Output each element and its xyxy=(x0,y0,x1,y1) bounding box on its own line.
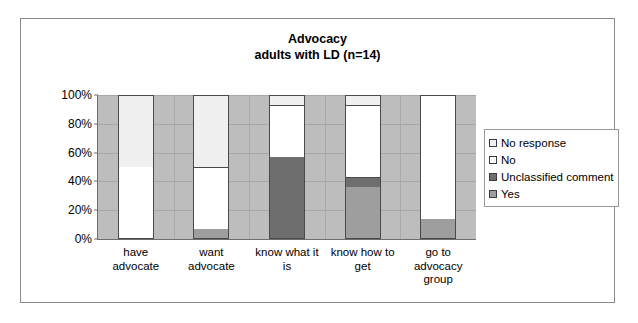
y-axis-tick-mark xyxy=(94,152,98,153)
bar-segment[interactable] xyxy=(345,177,381,187)
legend-label: Yes xyxy=(501,188,520,200)
legend-swatch-icon xyxy=(489,139,497,147)
chart-frame: Advocacy adults with LD (n=14) 0%20%40%6… xyxy=(20,18,615,303)
legend-item[interactable]: No response xyxy=(489,134,613,151)
bar-segment[interactable] xyxy=(118,167,154,239)
bar-segment[interactable] xyxy=(193,95,229,167)
bar-segment[interactable] xyxy=(345,105,381,177)
x-axis-label: know what itis xyxy=(249,246,325,273)
x-axis-label-line: group xyxy=(400,273,476,287)
legend-swatch-icon xyxy=(489,190,497,198)
legend-item[interactable]: Yes xyxy=(489,185,613,202)
legend-swatch-icon xyxy=(489,173,497,181)
bar-segment[interactable] xyxy=(269,105,305,157)
bar-segment[interactable] xyxy=(118,95,154,167)
x-axis-label-line: get xyxy=(325,260,401,274)
category-separator xyxy=(325,95,326,239)
bar-segment[interactable] xyxy=(193,229,229,239)
chart-subtitle: adults with LD (n=14) xyxy=(21,47,614,63)
bar-segment[interactable] xyxy=(269,95,305,105)
y-axis-tick-label: 80% xyxy=(68,117,92,131)
x-axis-label: know how toget xyxy=(325,246,401,273)
plot-area: 0%20%40%60%80%100%haveadvocatewantadvoca… xyxy=(97,95,476,240)
y-axis-tick-label: 20% xyxy=(68,203,92,217)
bar-segment[interactable] xyxy=(193,167,229,229)
legend-label: Unclassified comment xyxy=(501,171,613,183)
bar-column[interactable] xyxy=(269,95,305,239)
x-axis-label-line: want xyxy=(174,246,250,260)
y-axis-tick-mark xyxy=(94,181,98,182)
category-separator xyxy=(174,95,175,239)
bar-segment[interactable] xyxy=(345,187,381,239)
x-axis-label-line: know how to xyxy=(325,246,401,260)
legend-swatch-icon xyxy=(489,156,497,164)
chart-legend: No responseNoUnclassified commentYes xyxy=(484,129,619,207)
x-axis-label: wantadvocate xyxy=(174,246,250,273)
y-axis-tick-mark xyxy=(94,210,98,211)
legend-label: No xyxy=(501,154,516,166)
y-axis-tick-label: 40% xyxy=(68,174,92,188)
category-separator xyxy=(400,95,401,239)
x-axis-label-line: advocate xyxy=(98,260,174,274)
chart-title: Advocacy adults with LD (n=14) xyxy=(21,31,614,63)
x-axis-label: haveadvocate xyxy=(98,246,174,273)
y-axis-tick-mark xyxy=(94,123,98,124)
bar-column[interactable] xyxy=(420,95,456,239)
x-axis-label-line: advocate xyxy=(174,260,250,274)
bar-column[interactable] xyxy=(193,95,229,239)
y-axis-tick-label: 0% xyxy=(75,232,92,246)
bar-segment[interactable] xyxy=(420,219,456,239)
y-axis-tick-mark xyxy=(94,239,98,240)
chart-title-main: Advocacy xyxy=(288,32,347,46)
y-axis-tick-label: 100% xyxy=(61,88,92,102)
bar-segment[interactable] xyxy=(345,95,381,105)
bar-segment[interactable] xyxy=(269,157,305,239)
legend-item[interactable]: No xyxy=(489,151,613,168)
bar-segment[interactable] xyxy=(420,95,456,219)
bar-column[interactable] xyxy=(118,95,154,239)
x-axis-label-line: know what it xyxy=(249,246,325,260)
x-axis-label-line: is xyxy=(249,260,325,274)
category-separator xyxy=(249,95,250,239)
x-axis-label-line: advocacy xyxy=(400,260,476,274)
y-axis-tick-mark xyxy=(94,95,98,96)
legend-label: No response xyxy=(501,137,566,149)
x-axis-label: go toadvocacygroup xyxy=(400,246,476,287)
bar-column[interactable] xyxy=(345,95,381,239)
x-axis-label-line: have xyxy=(98,246,174,260)
x-axis-label-line: go to xyxy=(400,246,476,260)
y-axis-tick-label: 60% xyxy=(68,146,92,160)
legend-item[interactable]: Unclassified comment xyxy=(489,168,613,185)
